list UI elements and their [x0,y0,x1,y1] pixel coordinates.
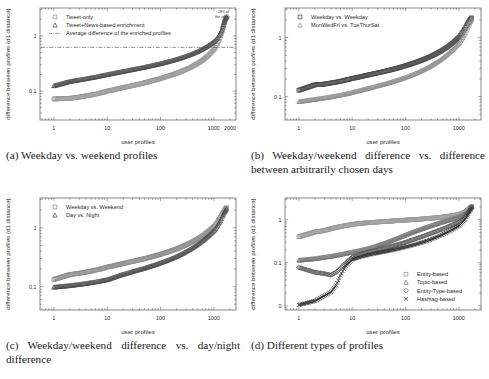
y-tick-label: 1 [279,35,282,41]
y-axis-title: difference between profiles (d1 distance… [249,8,256,119]
plot-svg: 11010010000.11user profilesdifference be… [0,190,244,340]
y-tick-label: 0.1 [274,94,282,100]
y-tick-label: 1 [279,217,282,223]
plot-svg: 110100100000.11user profilesdifference b… [245,190,489,340]
legend-label: Tweet+News-based enrichment [66,22,145,28]
plot-svg: 11010010000.11user profilesdifference be… [245,0,489,150]
legend-label: MonWedFri vs. TueThurSat [311,22,380,28]
y-tick-label: 0.1 [274,260,282,266]
x-axis-title: user profiles [121,138,155,145]
x-tick-label: 1000 [208,315,220,321]
panel-c: 11010010000.11user profilesdifference be… [0,190,244,379]
x-tick-label: 1 [297,315,300,321]
x-tick-label: 1000 [208,125,220,131]
x-tick-label: 1 [52,315,55,321]
x-tick-label: 100 [401,315,410,321]
plot-svg: 110100100020000.11user profilesdifferenc… [0,0,244,150]
legend-label: Day vs. Night [66,212,100,218]
panel-d: 110100100000.11user profilesdifference b… [245,190,489,379]
legend-label: Hashtag-based [417,296,455,302]
caption-b: (b) Weekday/weekend difference vs. diffe… [251,149,485,176]
y-axis-title: difference between profiles (d1 distance… [249,198,256,309]
x-tick-label: 1 [297,125,300,131]
caption-c: (c) Weekday/weekend difference vs. day/n… [6,339,240,366]
x-axis-title: user profiles [366,328,400,335]
y-tick-label: 1 [34,33,37,39]
legend-label: Topic-based [417,279,447,285]
legend-label: Average difference of the enriched profi… [66,30,171,36]
y-axis-title: difference between profiles (d1 distance… [4,8,11,119]
legend-label: Weekday vs. Weekday [311,14,368,20]
y-tick-label: 1 [34,225,37,231]
x-tick-label: 100 [156,315,165,321]
x-tick-label: 1000 [453,125,465,131]
caption-a: (a) Weekday vs. weekend profiles [6,149,240,163]
x-tick-label: 10 [104,125,110,131]
legend-label: Entity-Type-based [417,288,462,294]
x-tick-label: 10 [349,125,355,131]
legend-label: Tweet-only [66,14,93,20]
x-tick-label: 10 [104,315,110,321]
y-tick-label: 0.1 [29,284,37,290]
x-tick-label: 1000 [453,315,465,321]
x-tick-label: 1 [52,125,55,131]
x-tick-label: 10 [349,315,355,321]
x-tick-label: 100 [401,125,410,131]
annotation: the users [215,15,230,19]
caption-d: (d) Different types of profiles [251,339,485,353]
legend-label: Entity-based [417,271,448,277]
figure-container: 110100100020000.11user profilesdifferenc… [0,0,489,379]
chart-c: 11010010000.11user profilesdifference be… [0,190,244,340]
x-tick-label: 2000 [224,125,236,131]
chart-b: 11010010000.11user profilesdifference be… [245,0,489,150]
chart-a: 110100100020000.11user profilesdifferenc… [0,0,244,150]
y-tick-label: 0 [279,303,282,309]
x-axis-title: user profiles [366,138,400,145]
panel-b: 11010010000.11user profilesdifference be… [245,0,489,189]
x-axis-title: user profiles [121,328,155,335]
y-axis-title: difference between profiles (d1 distance… [4,198,11,309]
chart-d: 110100100000.11user profilesdifference b… [245,190,489,340]
legend-label: Weekday vs. Weekend [66,204,123,210]
x-tick-label: 100 [156,125,165,131]
panel-a: 110100100020000.11user profilesdifferenc… [0,0,244,189]
y-tick-label: 0.1 [29,88,37,94]
